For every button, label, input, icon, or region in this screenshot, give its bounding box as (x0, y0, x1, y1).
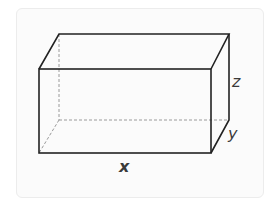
prism-diagram (0, 0, 279, 211)
visible-edges (39, 34, 229, 153)
label-z: z (232, 74, 240, 90)
label-x: x (119, 159, 129, 175)
hidden-edges (39, 34, 229, 153)
top-face-edges (39, 34, 229, 69)
hidden-edge-bottom-left-depth (39, 120, 59, 153)
label-y: y (228, 126, 237, 142)
front-face (39, 69, 211, 153)
